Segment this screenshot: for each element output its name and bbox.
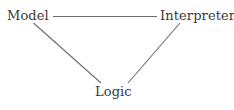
node-label-interpreter: Interpreter [160,9,234,22]
node-label-model: Model [7,9,49,22]
edge-model-logic [34,23,102,83]
node-label-logic: Logic [95,85,132,98]
diagram-canvas: Model Interpreter Logic [0,0,234,110]
edge-interpreter-logic [128,23,180,83]
